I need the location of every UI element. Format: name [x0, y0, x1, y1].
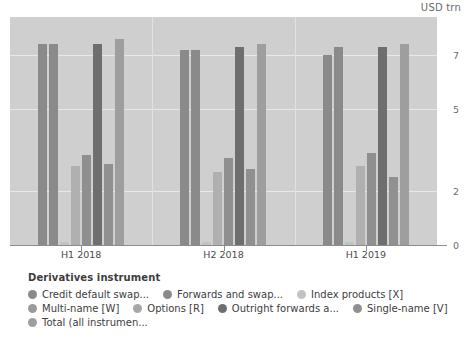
legend-swatch-icon — [28, 318, 37, 327]
legend-swatch-icon — [28, 304, 37, 313]
legend-swatch-icon — [353, 304, 362, 313]
legend-item-label: Multi-name [W] — [42, 303, 119, 314]
bar[interactable] — [334, 47, 343, 245]
x-tick-label: H2 2018 — [203, 249, 243, 260]
bar[interactable] — [389, 177, 398, 245]
y-tick-label: 7 — [453, 50, 467, 61]
bar[interactable] — [104, 164, 113, 245]
bar[interactable] — [71, 166, 80, 245]
bar-group-bars — [32, 17, 130, 245]
bar[interactable] — [180, 50, 189, 245]
legend-item[interactable]: Outright forwards a... — [218, 303, 339, 314]
legend-item[interactable]: Multi-name [W] — [28, 303, 119, 314]
legend-title: Derivatives instrument — [28, 272, 460, 283]
legend-item-label: Single-name [V] — [367, 303, 448, 314]
legend-item[interactable]: Credit default swap... — [28, 289, 149, 300]
bar-group — [10, 17, 152, 245]
legend-item[interactable]: Forwards and swap... — [163, 289, 283, 300]
legend-item[interactable]: Single-name [V] — [353, 303, 448, 314]
bar[interactable] — [115, 39, 124, 245]
legend-swatch-icon — [28, 290, 37, 299]
bar[interactable] — [38, 44, 47, 245]
legend-item-label: Index products [X] — [311, 289, 403, 300]
legend-swatch-icon — [133, 304, 142, 313]
legend-item-label: Options [R] — [147, 303, 204, 314]
bar[interactable] — [246, 169, 255, 245]
bar[interactable] — [213, 172, 222, 245]
legend-row: Total (all instrumen... — [28, 317, 460, 328]
legend-swatch-icon — [297, 290, 306, 299]
bar-group — [295, 17, 437, 245]
bar[interactable] — [93, 44, 102, 245]
legend-item-label: Outright forwards a... — [232, 303, 339, 314]
legend-row: Multi-name [W]Options [R]Outright forwar… — [28, 303, 460, 314]
bar-groups — [10, 17, 437, 245]
x-tick-label: H1 2018 — [61, 249, 101, 260]
bar[interactable] — [323, 55, 332, 245]
bar[interactable] — [82, 155, 91, 245]
bar[interactable] — [49, 44, 58, 245]
legend: Derivatives instrument Credit default sw… — [28, 272, 460, 328]
bar[interactable] — [224, 158, 233, 245]
plot-inner — [10, 17, 437, 245]
bar[interactable] — [235, 47, 244, 245]
y-tick-label: 0 — [453, 240, 467, 251]
bar-group-bars — [174, 17, 272, 245]
legend-item-label: Forwards and swap... — [177, 289, 283, 300]
legend-swatch-icon — [163, 290, 172, 299]
x-tick-label: H1 2019 — [346, 249, 386, 260]
bar[interactable] — [400, 44, 409, 245]
x-axis-line — [10, 245, 447, 246]
y-axis-unit-label: USD trn — [421, 2, 461, 13]
legend-rows: Credit default swap...Forwards and swap.… — [28, 289, 460, 328]
legend-swatch-icon — [218, 304, 227, 313]
legend-item[interactable]: Total (all instrumen... — [28, 317, 148, 328]
legend-item-label: Total (all instrumen... — [42, 317, 148, 328]
legend-row: Credit default swap...Forwards and swap.… — [28, 289, 460, 300]
bar[interactable] — [367, 153, 376, 245]
bar[interactable] — [257, 44, 266, 245]
bar[interactable] — [191, 50, 200, 245]
plot-area — [10, 17, 437, 245]
y-tick-label: 2 — [453, 185, 467, 196]
bar-group-bars — [317, 17, 415, 245]
bar[interactable] — [356, 166, 365, 245]
derivatives-bar-chart: USD trn 0257 H1 2018H2 2018H1 2019 Deriv… — [0, 0, 469, 349]
bar[interactable] — [378, 47, 387, 245]
legend-item[interactable]: Index products [X] — [297, 289, 403, 300]
legend-item[interactable]: Options [R] — [133, 303, 204, 314]
legend-item-label: Credit default swap... — [42, 289, 149, 300]
bar-group — [152, 17, 294, 245]
y-tick-label: 5 — [453, 104, 467, 115]
